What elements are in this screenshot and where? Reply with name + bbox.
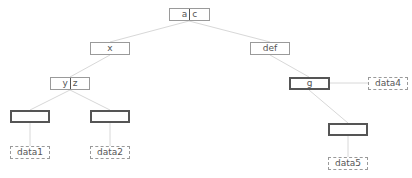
node-root: a c [169,8,210,21]
edge-def-g [270,55,309,77]
node-data1: data1 [10,146,50,159]
node-divider [70,78,71,89]
node-empty-3 [328,123,368,136]
node-data2-label: data2 [97,147,123,158]
node-yz-left-label: y [62,78,67,89]
node-def: def [250,42,290,55]
node-g: g [289,77,330,90]
node-root-right-label: c [192,9,197,20]
node-data4-label: data4 [375,78,401,89]
node-data2: data2 [90,146,130,159]
edge-yz-empty1 [30,90,70,110]
node-data4: data4 [368,77,408,90]
node-empty-1 [10,110,50,123]
node-g-label: g [307,78,313,89]
edge-root-def [189,21,270,42]
node-data5: data5 [328,157,368,170]
node-x: x [90,42,130,55]
node-yz-right-label: z [73,78,78,89]
node-divider [189,9,190,20]
edge-yz-empty2 [70,90,110,110]
node-yz: y z [50,77,90,90]
node-data5-label: data5 [335,158,361,169]
edge-g-empty3 [309,90,348,123]
edge-x-yz [70,55,110,77]
node-x-label: x [107,43,112,54]
node-data1-label: data1 [17,147,43,158]
node-root-left-label: a [182,9,188,20]
edge-root-x [110,21,189,42]
node-def-label: def [263,43,277,54]
node-empty-2 [90,110,130,123]
